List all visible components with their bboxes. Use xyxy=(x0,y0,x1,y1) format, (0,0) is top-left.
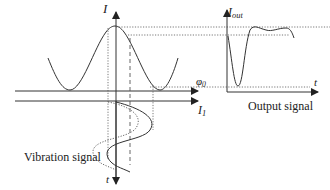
i1-axis-label: I1 xyxy=(198,104,206,118)
phase-subscript: 0 xyxy=(202,80,206,89)
i1-sub: 1 xyxy=(202,109,206,118)
intensity-axis-label: I xyxy=(103,2,107,15)
vibration-signal-caption: Vibration signal xyxy=(24,151,101,163)
time-axis-label: t xyxy=(106,174,109,185)
phase-label: φ0 xyxy=(196,76,206,89)
output-signal-caption: Output signal xyxy=(248,100,313,112)
transfer-curve xyxy=(48,26,178,90)
output-axis-label-sub: out xyxy=(232,11,243,20)
output-axis-label: Iout xyxy=(228,6,243,20)
output-time-label: t xyxy=(314,77,317,88)
vibration-signal-solid xyxy=(107,102,152,172)
interferometer-transfer-diagram: I Iout t φ0 I1 t Vibration signal Output… xyxy=(0,0,330,190)
output-signal-curve xyxy=(228,27,294,86)
